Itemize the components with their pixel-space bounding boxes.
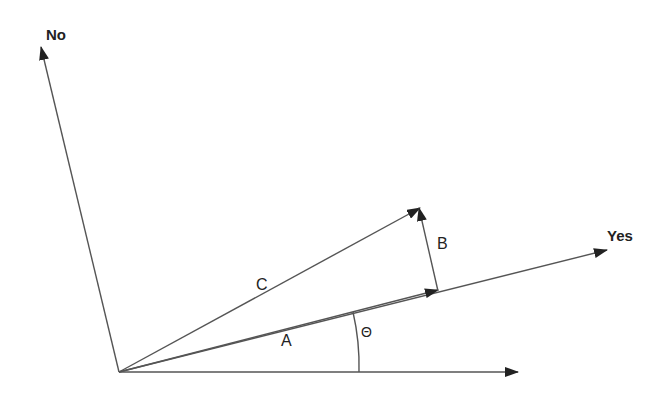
vector-a <box>119 290 438 372</box>
no-axis-label: No <box>46 26 66 43</box>
vector-b-label: B <box>437 235 448 252</box>
vector-diagram: No Yes C A B Θ <box>0 0 669 393</box>
vector-c-label: C <box>256 276 268 293</box>
vector-a-label: A <box>281 332 292 349</box>
yes-axis-label: Yes <box>607 227 633 244</box>
vector-b <box>419 208 438 291</box>
angle-theta-label: Θ <box>361 324 372 340</box>
angle-arc <box>353 312 359 372</box>
no-axis <box>41 47 119 372</box>
vector-c <box>119 208 420 372</box>
